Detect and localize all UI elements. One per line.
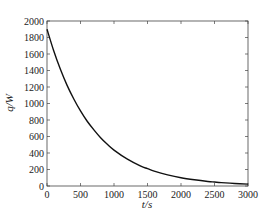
x-tick-label: 2000 [171,189,191,200]
series-line-q [47,29,248,184]
x-tick-label: 1000 [104,189,124,200]
y-tick-label: 800 [29,115,44,126]
y-tick-label: 1400 [24,65,44,76]
y-tick-label: 0 [39,181,44,192]
x-tick-label: 500 [73,189,88,200]
y-tick-label: 1800 [24,32,44,43]
y-axis-label: q/W [3,93,15,112]
series-lines [47,29,248,184]
x-axis-label: t/s [142,198,152,210]
y-tick-label: 1200 [24,82,44,93]
x-axis-ticks: 050010001500200025003000 [45,21,259,200]
y-tick-label: 1000 [24,98,44,109]
y-tick-label: 200 [29,164,44,175]
chart: 0200400600800100012001400160018002000 05… [0,0,269,219]
x-tick-label: 2500 [205,189,225,200]
y-tick-label: 400 [29,148,44,159]
y-axis-ticks: 0200400600800100012001400160018002000 [24,16,248,192]
y-tick-label: 2000 [24,16,44,27]
y-tick-label: 600 [29,131,44,142]
x-tick-label: 3000 [238,189,258,200]
y-tick-label: 1600 [24,49,44,60]
x-tick-label: 0 [45,189,50,200]
plot-frame [47,21,248,186]
